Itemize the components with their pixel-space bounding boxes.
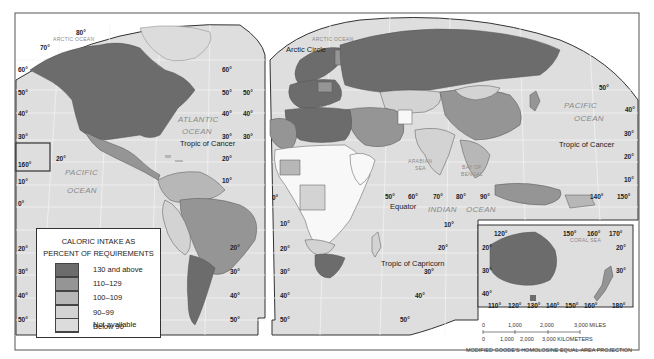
lat-label: 50° <box>599 84 609 91</box>
lat-label: 30° <box>230 268 240 275</box>
lat-label: 20° <box>616 244 626 251</box>
ocean-label-pacific-left-2: OCEAN <box>67 186 97 195</box>
ocean-label-indian-2: OCEAN <box>466 205 496 214</box>
congo-region <box>300 185 325 210</box>
lat-label: 0° <box>18 200 24 207</box>
lat-label: 70° <box>40 44 50 51</box>
lat-label: 60° <box>18 66 28 73</box>
scale-miles-0: 0 <box>482 322 485 328</box>
scale-miles-1000: 1,000 <box>508 322 522 328</box>
legend-swatch-not-available <box>55 318 79 332</box>
lon-label: 170° <box>609 230 622 237</box>
ocean-label-arctic-right: ARCTIC OCEAN <box>312 36 353 42</box>
lat-label: 30° <box>624 130 634 137</box>
lon-label: 90° <box>480 193 490 200</box>
lat-label: 20° <box>482 244 492 251</box>
lon-label: 180° <box>612 302 625 309</box>
lat-label: 50° <box>18 316 28 323</box>
lat-label: 40° <box>222 110 232 117</box>
ocean-label-arabian-1: ARABIAN <box>408 158 432 164</box>
lon-label: 140° <box>546 302 559 309</box>
ocean-label-bengal-2: BENGAL <box>461 171 483 177</box>
lat-label: 40° <box>415 292 425 299</box>
poland <box>318 82 332 92</box>
scale-miles-3000: 3,000 MILES <box>574 322 606 328</box>
lat-label: 30° <box>243 133 253 140</box>
lon-label: 120° <box>508 302 521 309</box>
ocean-label-pacific-right-1: PACIFIC <box>564 101 597 110</box>
lat-label: 20° <box>222 155 232 162</box>
legend-swatch-90-99 <box>55 305 79 319</box>
lon-label: 50° <box>385 193 395 200</box>
lat-label: 50° <box>230 316 240 323</box>
lat-label: 50° <box>243 89 253 96</box>
ocean-label-bengal-1: BAY OF <box>462 164 482 170</box>
afghanistan <box>398 110 412 124</box>
ocean-label-pacific-left-1: PACIFIC <box>65 168 98 177</box>
ocean-label-coral-sea: CORAL SEA <box>570 237 601 243</box>
lon-label: 150° <box>563 230 576 237</box>
tasmania <box>530 295 536 301</box>
lon-label: 80° <box>456 193 466 200</box>
lat-label: 50° <box>222 89 232 96</box>
lat-label: 20° <box>230 244 240 251</box>
lon-label: 60° <box>408 193 418 200</box>
ocean-label-arabian-2: SEA <box>415 165 426 171</box>
lat-label: 50° <box>280 316 290 323</box>
lat-label: 40° <box>18 110 28 117</box>
lat-label: 40° <box>18 292 28 299</box>
legend-swatch-130-above <box>55 263 79 277</box>
lat-label: 40° <box>230 292 240 299</box>
legend-title-line1: CALORIC INTAKE AS <box>37 237 160 246</box>
lat-label: 30° <box>18 268 28 275</box>
lat-label: 50° <box>18 89 28 96</box>
lat-label: 30° <box>482 267 492 274</box>
ocean-label-atlantic-1: ATLANTIC <box>178 115 218 124</box>
legend-swatch-100-109 <box>55 291 79 305</box>
legend-swatch-110-129 <box>55 277 79 291</box>
lat-label: 30° <box>424 268 434 275</box>
lon-label: 130° <box>527 302 540 309</box>
ocean-label-arctic-left: ARCTIC OCEAN <box>53 36 94 42</box>
lon-label: 160° <box>18 161 31 168</box>
lat-label: 10° <box>18 178 28 185</box>
lat-label: 20° <box>624 153 634 160</box>
scale-km-0: 0 <box>482 336 485 342</box>
lon-label: 160° <box>587 230 600 237</box>
lat-label: 40° <box>482 290 492 297</box>
lat-label: 20° <box>18 245 28 252</box>
legend-label: 100–109 <box>93 293 122 302</box>
legend-label: Not available <box>93 320 136 329</box>
tropic-cancer-left-label: Tropic of Cancer <box>180 139 235 148</box>
lon-label: 70° <box>433 193 443 200</box>
legend-label: 90–99 <box>93 308 114 317</box>
tropic-cancer-right-label: Tropic of Cancer <box>559 140 614 149</box>
lat-label: 60° <box>222 66 232 73</box>
scale-miles-2000: 2,000 <box>540 322 554 328</box>
ocean-label-atlantic-2: OCEAN <box>182 127 212 136</box>
tropic-capricorn-label: Tropic of Capricorn <box>381 259 445 268</box>
nigeria-region <box>280 160 300 175</box>
equator-label: Equator <box>390 202 416 211</box>
ocean-label-indian-1: INDIAN <box>428 205 457 214</box>
projection-label: MODIFIED GOODE'S HOMOLOSINE EQUAL-AREA P… <box>466 347 632 353</box>
lat-label: 30° <box>222 133 232 140</box>
australia <box>490 232 557 285</box>
lat-label: 20° <box>438 244 448 251</box>
lat-label: 20° <box>280 245 290 252</box>
lon-label: 110° <box>488 302 501 309</box>
scale-km-1000: 1,000 <box>500 336 514 342</box>
lat-label: 20° <box>56 155 66 162</box>
lat-label: 50° <box>400 316 410 323</box>
lon-label: 150° <box>565 302 578 309</box>
scale-km-2000: 2,000 <box>520 336 534 342</box>
lat-label: 10° <box>444 221 454 228</box>
legend-title-line2: PERCENT OF REQUIREMENTS <box>37 249 160 258</box>
legend-label: 130 and above <box>93 265 143 274</box>
lon-label: 150° <box>617 193 630 200</box>
lat-label: 40° <box>625 106 635 113</box>
lat-label: 10° <box>222 177 232 184</box>
lat-label: 80° <box>76 29 86 36</box>
legend-label: 110–129 <box>93 279 122 288</box>
lat-label: 30° <box>18 133 28 140</box>
